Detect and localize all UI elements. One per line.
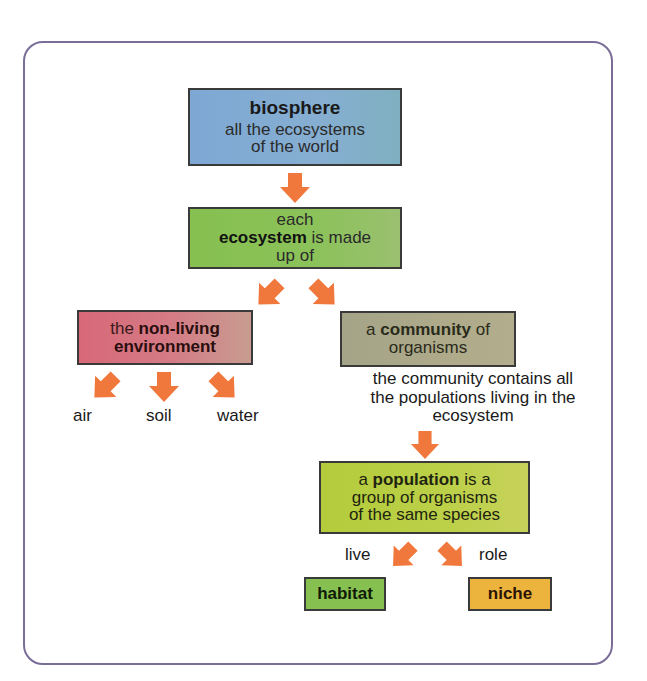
arrow-down-left-icon — [253, 278, 285, 310]
ecosystem-line2: ecosystem is made — [219, 229, 371, 247]
biosphere-subtitle-line1: all the ecosystems — [225, 121, 365, 139]
population-line3: of the same species — [349, 506, 500, 524]
arrow-live-icon — [388, 541, 418, 571]
nonliving-line1: the non-living — [110, 320, 220, 338]
label-role: role — [479, 545, 507, 565]
community-description-line2: the populations living in the — [353, 389, 593, 408]
population-prefix: a — [358, 470, 372, 489]
community-description: the community contains all the populatio… — [353, 370, 593, 426]
community-box: a community of organisms — [340, 311, 516, 367]
nonliving-line2: environment — [114, 338, 216, 356]
label-air: air — [73, 406, 92, 426]
nonliving-prefix: the — [110, 319, 138, 338]
arrow-role-icon — [437, 541, 467, 571]
community-prefix: a — [366, 320, 380, 339]
arrow-down-icon — [410, 430, 440, 460]
label-live: live — [345, 545, 371, 565]
population-box: a population is a group of organisms of … — [319, 461, 530, 534]
environment-keyword: environment — [114, 337, 216, 356]
label-water: water — [217, 406, 259, 426]
arrow-water-icon — [208, 371, 240, 403]
biosphere-subtitle-line2: of the world — [251, 138, 339, 156]
habitat-label: habitat — [317, 585, 373, 603]
population-line2: group of organisms — [352, 489, 498, 507]
ecosystem-line3: up of — [276, 247, 314, 265]
nonliving-keyword: non-living — [139, 319, 220, 338]
biosphere-box: biosphere all the ecosystems of the worl… — [188, 88, 402, 166]
community-keyword: community — [380, 320, 471, 339]
population-suffix: is a — [459, 470, 490, 489]
community-line2: organisms — [389, 339, 467, 357]
label-soil: soil — [146, 406, 172, 426]
arrow-down-right-icon — [308, 278, 340, 310]
biosphere-title: biosphere — [250, 98, 341, 118]
niche-box: niche — [468, 577, 552, 611]
ecosystem-box: each ecosystem is made up of — [188, 207, 402, 269]
habitat-box: habitat — [304, 577, 386, 611]
nonliving-environment-box: the non-living environment — [77, 310, 253, 365]
arrow-air-icon — [89, 371, 121, 403]
ecosystem-line2-rest: is made — [307, 228, 371, 247]
ecosystem-line1: each — [277, 211, 314, 229]
community-description-line3: ecosystem — [353, 407, 593, 426]
ecosystem-keyword: ecosystem — [219, 228, 307, 247]
community-line1: a community of — [366, 321, 490, 339]
arrow-soil-icon — [148, 371, 180, 403]
community-description-line1: the community contains all — [353, 370, 593, 389]
population-keyword: population — [373, 470, 460, 489]
arrow-down-icon — [279, 172, 311, 204]
population-line1: a population is a — [358, 471, 490, 489]
niche-label: niche — [488, 585, 532, 603]
community-suffix: of — [471, 320, 490, 339]
